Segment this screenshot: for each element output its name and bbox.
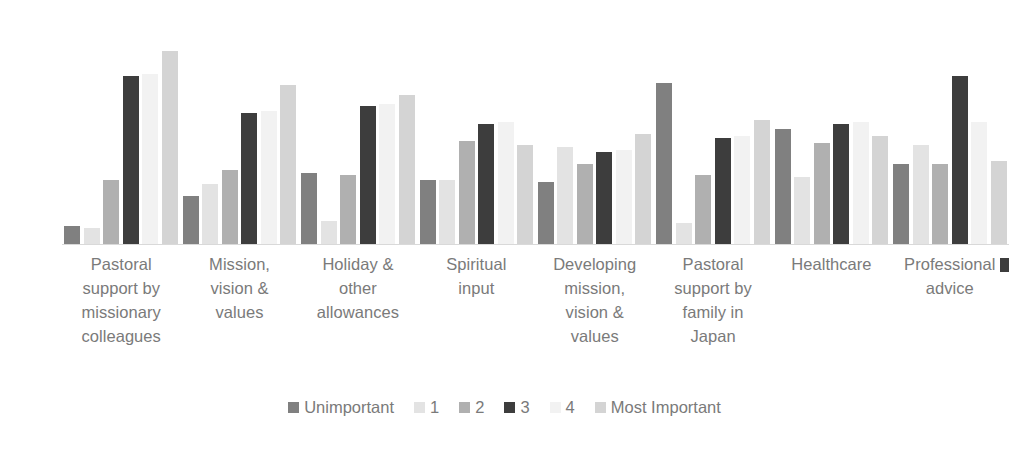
bar	[676, 223, 692, 244]
bar-group	[538, 14, 652, 244]
bar	[577, 164, 593, 245]
bar	[557, 147, 573, 244]
legend-swatch-icon	[504, 402, 515, 413]
category-label-line: Professional	[891, 252, 1009, 276]
category-label-line: values	[180, 300, 298, 324]
legend-item[interactable]: 1	[414, 398, 439, 417]
bar	[538, 182, 554, 244]
bar	[775, 129, 791, 244]
bar-chart: Relative Importance Pastoralsupport bymi…	[0, 0, 1009, 462]
bar	[498, 122, 514, 244]
category-label-line: support by	[62, 276, 180, 300]
bar	[420, 180, 436, 244]
category-label-line: allowances	[299, 300, 417, 324]
bar	[893, 164, 909, 245]
legend-item[interactable]: Unimportant	[288, 398, 394, 417]
legend-label: 2	[475, 398, 484, 417]
category-label-line: support by	[654, 276, 772, 300]
bar	[952, 76, 968, 244]
legend-label: Unimportant	[304, 398, 394, 417]
category-label-line: family in	[654, 300, 772, 324]
bar-group	[775, 14, 889, 244]
bar	[833, 124, 849, 244]
bar	[321, 221, 337, 244]
category-label-line: vision &	[536, 300, 654, 324]
bar	[913, 145, 929, 244]
bar	[814, 143, 830, 244]
x-axis-category-labels: Pastoralsupport bymissionarycolleaguesMi…	[62, 252, 1009, 382]
legend-label: 3	[520, 398, 529, 417]
bar	[794, 177, 810, 244]
bar	[379, 104, 395, 244]
category-label-line: Spiritual	[417, 252, 535, 276]
category-label-line: Healthcare	[772, 252, 890, 276]
bar-group	[420, 14, 534, 244]
category-label-line: Japan	[654, 324, 772, 348]
bar	[183, 196, 199, 244]
bar	[932, 164, 948, 245]
bar-group	[893, 14, 1007, 244]
bar	[399, 95, 415, 245]
bar	[991, 161, 1007, 244]
bar	[656, 83, 672, 244]
category-label: Professionaladvice	[891, 252, 1009, 300]
legend-item[interactable]: Most Important	[595, 398, 721, 417]
bar	[478, 124, 494, 244]
bar	[280, 85, 296, 244]
category-label-line: values	[536, 324, 654, 348]
legend-swatch-icon	[595, 402, 606, 413]
category-label-line: Pastoral	[654, 252, 772, 276]
legend-item[interactable]: 4	[550, 398, 575, 417]
bar	[616, 150, 632, 244]
category-label-line: vision &	[180, 276, 298, 300]
bar-group	[183, 14, 297, 244]
category-label-line: missionary	[62, 300, 180, 324]
category-label-line: Holiday &	[299, 252, 417, 276]
bar	[971, 122, 987, 244]
bar	[64, 226, 80, 244]
category-label-line: colleagues	[62, 324, 180, 348]
category-label: Mission,vision &values	[180, 252, 298, 324]
bar	[635, 134, 651, 244]
bar	[162, 51, 178, 244]
legend-label: Most Important	[611, 398, 721, 417]
category-label-line: other	[299, 276, 417, 300]
category-label: Spiritualinput	[417, 252, 535, 300]
legend-swatch-icon	[414, 402, 425, 413]
bar	[517, 145, 533, 244]
bar-group	[656, 14, 770, 244]
bar	[261, 111, 277, 244]
legend-item[interactable]: 3	[504, 398, 529, 417]
bar	[103, 180, 119, 244]
bar-group	[301, 14, 415, 244]
edge-clip-artifact	[1000, 258, 1009, 272]
category-label: Pastoralsupport byfamily inJapan	[654, 252, 772, 348]
legend-item[interactable]: 2	[459, 398, 484, 417]
bar	[872, 136, 888, 244]
chart-legend: Unimportant1234Most Important	[0, 398, 1009, 417]
bar	[754, 120, 770, 244]
legend-label: 4	[566, 398, 575, 417]
legend-label: 1	[430, 398, 439, 417]
bar	[222, 170, 238, 244]
category-label: Healthcare	[772, 252, 890, 276]
bar	[459, 141, 475, 245]
legend-swatch-icon	[459, 402, 470, 413]
legend-swatch-icon	[288, 402, 299, 413]
bar	[142, 74, 158, 244]
category-label-line: advice	[891, 276, 1009, 300]
bar	[596, 152, 612, 244]
bar	[202, 184, 218, 244]
bar-group	[64, 14, 178, 244]
legend-swatch-icon	[550, 402, 561, 413]
bar	[123, 76, 139, 244]
bar	[360, 106, 376, 244]
bar	[84, 228, 100, 244]
bar	[241, 113, 257, 244]
category-label-line: input	[417, 276, 535, 300]
category-label-line: Developing	[536, 252, 654, 276]
category-label-line: mission,	[536, 276, 654, 300]
plot-area	[62, 14, 1009, 244]
bar	[695, 175, 711, 244]
category-label-line: Pastoral	[62, 252, 180, 276]
